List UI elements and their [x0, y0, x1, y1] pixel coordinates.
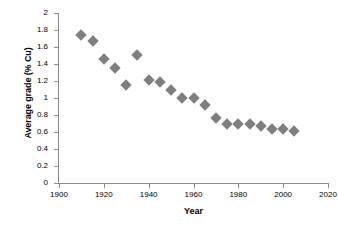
y-axis-tick-label: 2	[6, 9, 48, 17]
y-axis-tick	[54, 81, 58, 82]
x-axis-title: Year	[59, 206, 328, 216]
x-axis-tick	[283, 184, 284, 188]
x-axis-tick-label: 2000	[263, 190, 303, 199]
y-axis-tick	[54, 47, 58, 48]
y-axis-tick-label: 1.4	[6, 60, 48, 68]
x-axis-tick-label: 1900	[39, 190, 79, 199]
y-axis-tick	[54, 166, 58, 167]
x-axis-tick-label: 1940	[129, 190, 169, 199]
x-axis-tick-label: 1920	[84, 190, 124, 199]
chart-container: Average grade (% Cu) Year 00.20.40.60.81…	[0, 0, 338, 227]
y-axis-tick	[54, 149, 58, 150]
x-axis-tick	[194, 184, 195, 188]
x-axis-tick-label: 1980	[218, 190, 258, 199]
x-axis-tick	[59, 184, 60, 188]
y-axis-tick-label: 0.2	[6, 162, 48, 170]
y-axis-tick	[54, 132, 58, 133]
x-axis-tick	[328, 184, 329, 188]
y-axis-tick-label: 1.8	[6, 26, 48, 34]
x-axis-tick-label: 2020	[308, 190, 338, 199]
y-axis-tick-label: 1.6	[6, 43, 48, 51]
y-axis-tick-label: 0.4	[6, 145, 48, 153]
y-axis-tick	[54, 98, 58, 99]
y-axis-tick	[54, 30, 58, 31]
y-axis-tick-label: 0.8	[6, 111, 48, 119]
y-axis-tick-label: 1.2	[6, 77, 48, 85]
y-axis-tick	[54, 13, 58, 14]
x-axis-tick	[238, 184, 239, 188]
y-axis-tick-label: 0.6	[6, 128, 48, 136]
y-axis-tick-label: 0	[6, 179, 48, 187]
y-axis-tick	[54, 64, 58, 65]
y-axis-tick	[54, 183, 58, 184]
x-axis-tick	[104, 184, 105, 188]
x-axis-tick	[149, 184, 150, 188]
x-axis-tick-label: 1960	[174, 190, 214, 199]
y-axis-tick-label: 1	[6, 94, 48, 102]
y-axis-tick	[54, 115, 58, 116]
